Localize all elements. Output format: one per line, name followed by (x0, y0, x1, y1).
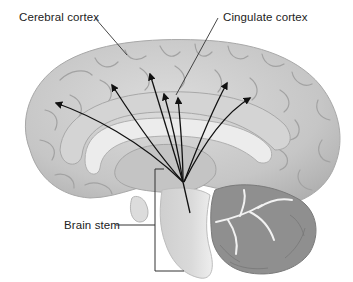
label-cerebral-cortex: Cerebral cortex (19, 11, 99, 23)
pituitary (130, 196, 148, 222)
label-cingulate-cortex: Cingulate cortex (223, 11, 308, 23)
brain-stem (160, 188, 212, 278)
brain-diagram: Cerebral cortex Cingulate cortex Brain s… (0, 0, 353, 282)
label-brain-stem: Brain stem (64, 219, 120, 231)
brain-illustration (0, 0, 353, 282)
